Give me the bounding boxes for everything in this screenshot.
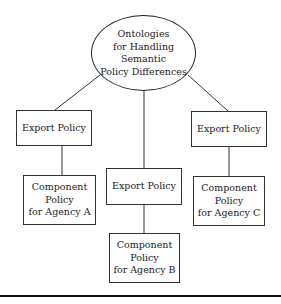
component-policy-label-c: Component Policy for Agency C: [198, 182, 260, 220]
root-node-ontologies: Ontologies for Handling Semantic Policy …: [91, 15, 196, 91]
component-policy-node-b: Component Policy for Agency B: [109, 233, 180, 283]
export-policy-node-a: Export Policy: [16, 110, 92, 146]
component-policy-node-a: Component Policy for Agency A: [23, 175, 96, 225]
export-policy-node-c: Export Policy: [191, 111, 267, 147]
export-policy-label-b: Export Policy: [112, 180, 176, 193]
root-node-label: Ontologies for Handling Semantic Policy …: [92, 28, 195, 78]
component-policy-node-c: Component Policy for Agency C: [193, 176, 265, 226]
export-policy-label-a: Export Policy: [22, 122, 86, 135]
bottom-rule-divider: [0, 295, 281, 297]
component-policy-label-b: Component Policy for Agency B: [113, 239, 175, 277]
component-policy-label-a: Component Policy for Agency A: [28, 181, 90, 219]
export-policy-node-b: Export Policy: [106, 168, 182, 205]
export-policy-label-c: Export Policy: [197, 123, 261, 136]
